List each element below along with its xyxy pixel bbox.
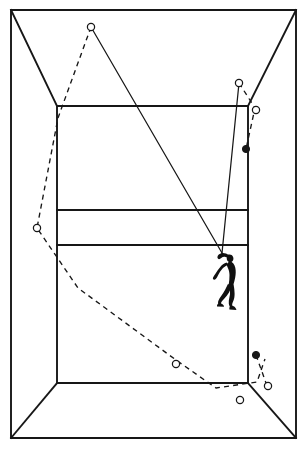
- ball-open-bottom-mid: [172, 360, 179, 367]
- ball-filled-bottom-right: [252, 351, 259, 358]
- ball-open-bottom-right-outer: [264, 382, 271, 389]
- ball-open-top-left: [87, 23, 94, 30]
- court-trajectory-diagram: [0, 0, 306, 449]
- ball-open-upper-right-low: [252, 106, 259, 113]
- ball-open-upper-right-high: [235, 79, 242, 86]
- ball-open-left-mid: [33, 224, 40, 231]
- ball-filled-upper-right: [242, 145, 249, 152]
- diagram-background: [0, 0, 306, 449]
- ball-open-bottom-right: [236, 396, 243, 403]
